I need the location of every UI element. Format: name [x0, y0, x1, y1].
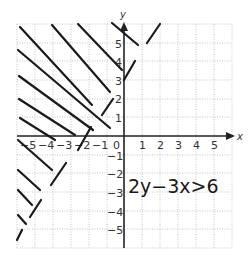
- svg-text:1: 1: [139, 139, 146, 152]
- svg-text:5: 5: [115, 38, 122, 51]
- svg-text:4: 4: [193, 139, 200, 152]
- svg-text:3: 3: [115, 75, 122, 88]
- svg-text:3: 3: [175, 139, 182, 152]
- svg-text:1: 1: [115, 112, 122, 125]
- svg-text:−1: −1: [92, 139, 108, 152]
- svg-text:−3: −3: [107, 187, 123, 200]
- svg-text:−4: −4: [107, 206, 123, 219]
- inequality-annotation: 2y−3x>6: [128, 175, 219, 197]
- svg-text:−3: −3: [56, 139, 72, 152]
- svg-text:−4: −4: [38, 139, 54, 152]
- svg-text:2: 2: [115, 93, 122, 106]
- svg-text:5: 5: [211, 139, 218, 152]
- svg-text:−2: −2: [107, 168, 123, 181]
- coordinate-plane: x y −5 −4 −3 −2 −1 0 1 2 3 4 5 1 2 3 4 5…: [0, 0, 249, 257]
- x-axis-label: x: [236, 131, 243, 142]
- svg-text:−5: −5: [107, 224, 123, 237]
- boundary-line: [17, 24, 160, 240]
- x-axis-arrow-icon: [226, 132, 235, 140]
- svg-text:2: 2: [157, 139, 164, 152]
- svg-text:−1: −1: [107, 150, 123, 163]
- y-axis-label: y: [119, 9, 127, 20]
